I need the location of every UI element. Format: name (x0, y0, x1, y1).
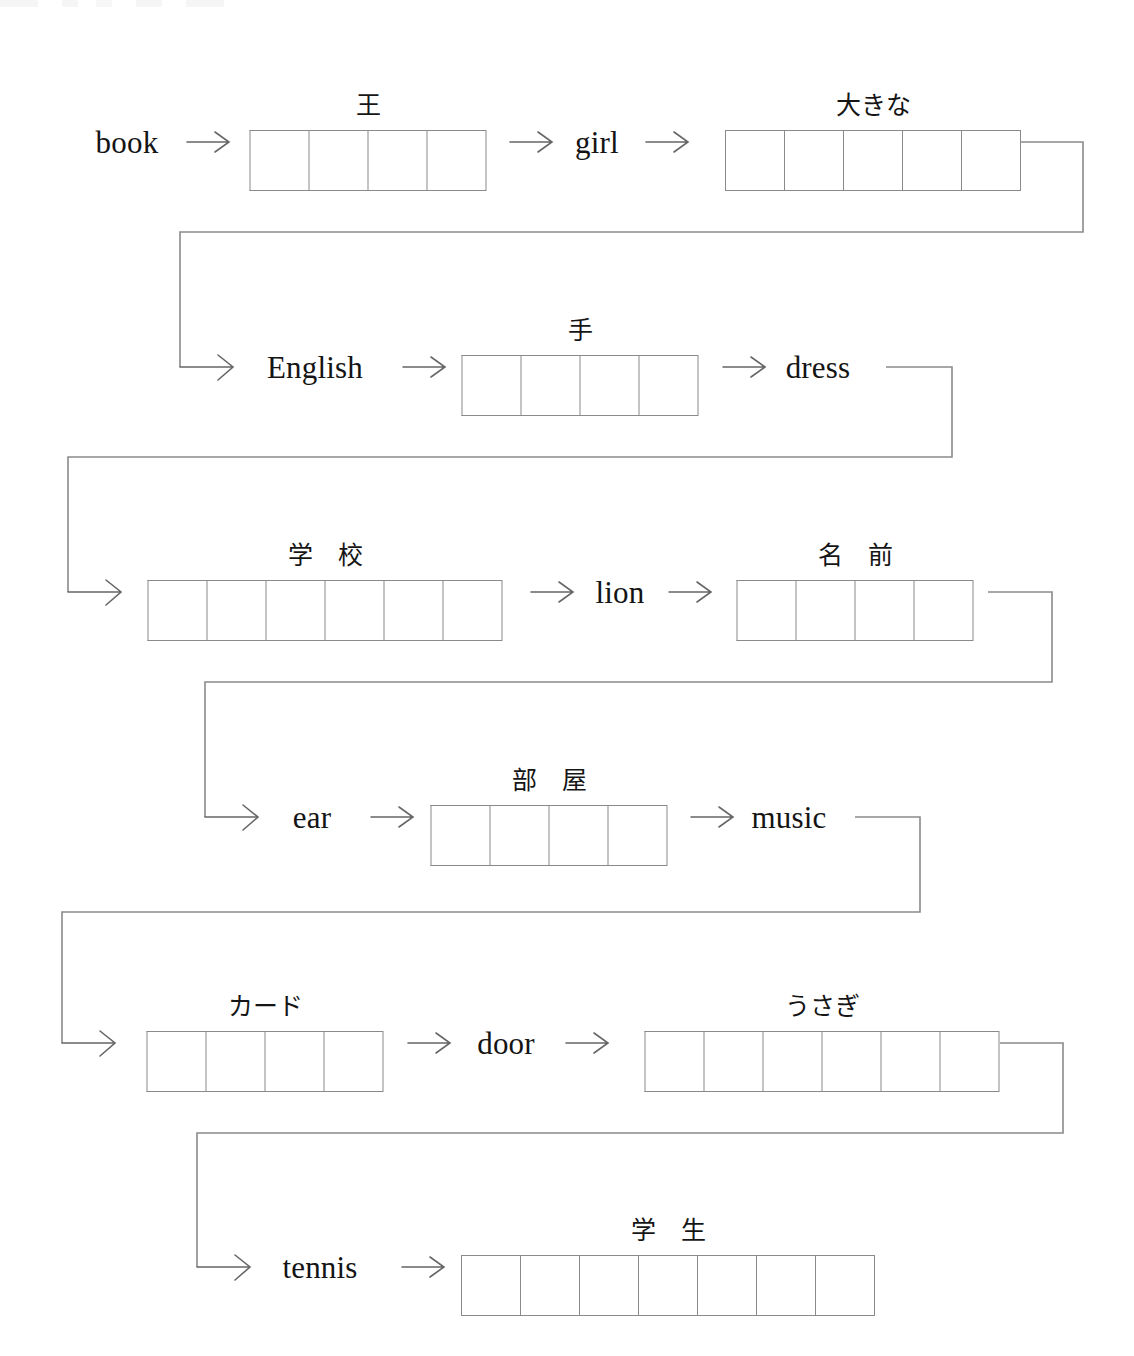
answer-cell[interactable] (428, 131, 487, 190)
answer-cell[interactable] (962, 131, 1021, 190)
answer-cell[interactable] (325, 1032, 384, 1091)
answer-box-namae[interactable]: 名 前 (737, 543, 974, 641)
word-tennis: tennis (282, 1252, 357, 1283)
answer-cell[interactable] (785, 131, 844, 190)
arrow-te-to-dress-icon (721, 354, 767, 380)
answer-cell[interactable] (816, 1256, 875, 1315)
connector-arrowhead-row4 (205, 805, 258, 830)
answer-cell[interactable] (432, 806, 491, 865)
answer-cell[interactable] (757, 1256, 816, 1315)
answer-box-kaado-label: カード (147, 994, 384, 1019)
arrow-girl-to-ookina-icon (644, 129, 690, 155)
answer-cell[interactable] (267, 581, 326, 640)
answer-cell[interactable] (764, 1032, 823, 1091)
answer-cell[interactable] (797, 581, 856, 640)
answer-box-ou[interactable]: 王 (250, 93, 487, 191)
answer-box-te[interactable]: 手 (462, 318, 699, 416)
answer-box-ou-label: 王 (250, 93, 487, 118)
answer-cell[interactable] (207, 1032, 266, 1091)
connector-layer (0, 0, 1134, 1356)
answer-cell[interactable] (463, 356, 522, 415)
connector-arrowhead-row3 (68, 580, 121, 605)
answer-cell[interactable] (266, 1032, 325, 1091)
answer-box-kaado[interactable]: カード (147, 994, 384, 1092)
arrow-english-to-te-icon (401, 354, 447, 380)
answer-box-gakkou-label: 学 校 (148, 543, 503, 568)
answer-cell[interactable] (882, 1032, 941, 1091)
arrow-book-to-ou-icon (185, 129, 231, 155)
answer-box-namae-cells[interactable] (737, 580, 974, 641)
arrow-lion-to-namae-icon (667, 579, 713, 605)
answer-cell[interactable] (698, 1256, 757, 1315)
answer-cell[interactable] (726, 131, 785, 190)
answer-box-gakkou[interactable]: 学 校 (148, 543, 503, 641)
answer-cell[interactable] (581, 356, 640, 415)
word-girl: girl (575, 127, 619, 158)
answer-box-kaado-cells[interactable] (147, 1031, 384, 1092)
answer-cell[interactable] (462, 1256, 521, 1315)
answer-cell[interactable] (640, 356, 699, 415)
answer-cell[interactable] (856, 581, 915, 640)
answer-cell[interactable] (149, 581, 208, 640)
answer-cell[interactable] (941, 1032, 1000, 1091)
answer-cell[interactable] (491, 806, 550, 865)
answer-cell[interactable] (550, 806, 609, 865)
answer-box-heya[interactable]: 部 屋 (431, 768, 668, 866)
arrow-kaado-to-door-icon (406, 1030, 452, 1056)
word-book: book (96, 127, 159, 158)
word-english: English (267, 352, 363, 383)
answer-box-gakkou-cells[interactable] (148, 580, 503, 641)
answer-box-usagi[interactable]: うさぎ (645, 994, 1000, 1092)
scan-artifact (0, 0, 260, 7)
answer-box-namae-label: 名 前 (737, 543, 974, 568)
answer-cell[interactable] (251, 131, 310, 190)
answer-cell[interactable] (326, 581, 385, 640)
answer-box-usagi-cells[interactable] (645, 1031, 1000, 1092)
answer-cell[interactable] (844, 131, 903, 190)
answer-box-te-cells[interactable] (462, 355, 699, 416)
answer-cell[interactable] (646, 1032, 705, 1091)
answer-box-te-label: 手 (462, 318, 699, 343)
answer-cell[interactable] (609, 806, 668, 865)
answer-box-gakusei-label: 学 生 (461, 1218, 875, 1243)
answer-cell[interactable] (705, 1032, 764, 1091)
word-music: music (751, 802, 826, 833)
arrow-door-to-usagi-icon (564, 1030, 610, 1056)
arrow-ear-to-heya-icon (369, 804, 415, 830)
connector-arrowhead-row5 (62, 1031, 115, 1056)
answer-cell[interactable] (915, 581, 974, 640)
answer-cell[interactable] (738, 581, 797, 640)
answer-cell[interactable] (444, 581, 503, 640)
word-lion: lion (595, 577, 644, 608)
answer-cell[interactable] (310, 131, 369, 190)
answer-box-gakusei-cells[interactable] (461, 1255, 875, 1316)
answer-box-ookina-cells[interactable] (725, 130, 1021, 191)
answer-box-ou-cells[interactable] (250, 130, 487, 191)
arrow-gakkou-to-lion-icon (529, 579, 575, 605)
answer-cell[interactable] (522, 356, 581, 415)
arrow-tennis-to-gakusei-icon (400, 1254, 446, 1280)
answer-box-gakusei[interactable]: 学 生 (461, 1218, 875, 1316)
worksheet-sheet: book 王 girl 大きな English 手 (0, 0, 1134, 1356)
answer-cell[interactable] (385, 581, 444, 640)
answer-cell[interactable] (369, 131, 428, 190)
connector-arrowhead-row2 (180, 355, 233, 380)
word-dress: dress (786, 352, 851, 383)
answer-cell[interactable] (208, 581, 267, 640)
word-door: door (477, 1028, 535, 1059)
answer-box-usagi-label: うさぎ (645, 994, 1000, 1019)
arrow-ou-to-girl-icon (508, 129, 554, 155)
answer-cell[interactable] (521, 1256, 580, 1315)
answer-cell[interactable] (148, 1032, 207, 1091)
answer-box-ookina-label: 大きな (725, 93, 1021, 118)
connector-arrowhead-row6 (197, 1255, 250, 1280)
answer-cell[interactable] (903, 131, 962, 190)
arrow-heya-to-music-icon (689, 804, 735, 830)
answer-cell[interactable] (823, 1032, 882, 1091)
answer-box-ookina[interactable]: 大きな (725, 93, 1021, 191)
answer-cell[interactable] (580, 1256, 639, 1315)
answer-cell[interactable] (639, 1256, 698, 1315)
answer-box-heya-label: 部 屋 (431, 768, 668, 793)
answer-box-heya-cells[interactable] (431, 805, 668, 866)
word-ear: ear (293, 802, 331, 833)
